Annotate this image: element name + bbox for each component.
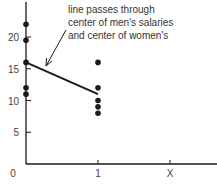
x-tick-label: 1 (95, 168, 101, 179)
arrow-head-icon (46, 58, 52, 66)
y-tick-label: 20 (8, 32, 20, 43)
y-tick-label: 5 (13, 127, 19, 138)
data-point-men (23, 22, 29, 28)
data-point-women (95, 60, 101, 66)
annotation-line: line passes through (68, 4, 155, 15)
x-tick-label: X (167, 168, 174, 179)
data-point-women (95, 98, 101, 104)
data-point-women (95, 110, 101, 116)
data-point-men (23, 91, 29, 97)
annotation-line: center of men's salaries (68, 17, 173, 28)
annotation: line passes throughcenter of men's salar… (46, 4, 173, 66)
data-point-men (23, 37, 29, 43)
annotation-line: and center of women's (68, 30, 168, 41)
x-tick-label: 0 (10, 168, 16, 179)
scatter-chart: 510152001X line passes throughcenter of … (0, 0, 217, 188)
y-tick-label: 15 (8, 64, 20, 75)
arrow-shaft (46, 30, 66, 66)
data-point-women (95, 104, 101, 110)
data-point-women (95, 85, 101, 91)
y-tick-label: 10 (8, 96, 20, 107)
center-line (26, 62, 98, 94)
data-point-men (23, 85, 29, 91)
ticks: 510152001X (8, 32, 174, 179)
trend-line (26, 62, 98, 94)
data-point-men (23, 60, 29, 66)
